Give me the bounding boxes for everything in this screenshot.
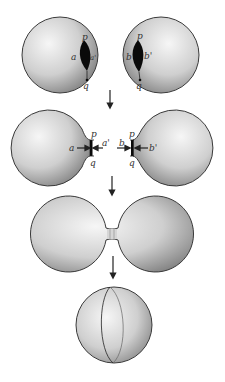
label-a: a xyxy=(71,52,76,62)
diagram-canvas: p a a' q p b b' q p q a a' xyxy=(0,0,225,382)
stage-2-left-sphere: p q a a' xyxy=(11,110,110,186)
tube-opening xyxy=(131,140,134,156)
label-a: a xyxy=(69,143,74,153)
label-q: q xyxy=(129,158,135,168)
label-p: p xyxy=(129,129,135,139)
label-q: q xyxy=(136,81,142,91)
stage-1-right-sphere: p b b' q xyxy=(123,17,199,93)
label-p: p xyxy=(137,31,143,41)
stage-2: p q a a' p q b b' xyxy=(11,110,213,186)
label-q: q xyxy=(90,158,96,168)
label-b: b xyxy=(126,52,132,62)
label-b: b xyxy=(119,138,125,148)
label-p: p xyxy=(82,32,88,42)
final-sphere xyxy=(76,287,152,363)
stage-3 xyxy=(30,196,193,272)
label-a-prime: a' xyxy=(90,54,96,62)
label-p: p xyxy=(91,129,97,139)
stage-1-left-sphere: p a a' q xyxy=(22,17,98,93)
stage-2-right-sphere: p q b b' xyxy=(117,110,213,186)
label-b-prime: b' xyxy=(149,143,157,153)
label-q: q xyxy=(83,81,89,91)
neck xyxy=(107,229,117,239)
stage-1: p a a' q p b b' q xyxy=(22,17,199,93)
label-a-prime: a' xyxy=(102,138,110,148)
label-b-prime: b' xyxy=(144,51,152,61)
stage-4 xyxy=(76,287,152,363)
tube-opening xyxy=(90,140,93,156)
